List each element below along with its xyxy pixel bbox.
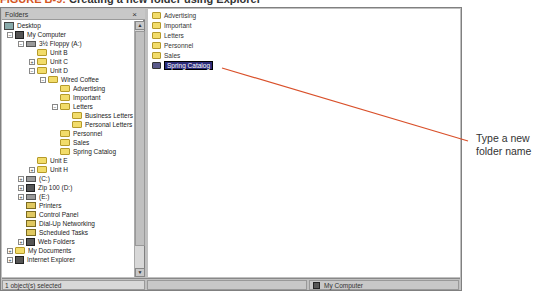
scroll-down-icon[interactable]: ▼ (135, 268, 145, 277)
tree-item-desktop[interactable]: Desktop (4, 21, 41, 30)
control-panel-icon (26, 211, 36, 218)
tree-item-unit-b[interactable]: Unit B (37, 48, 68, 57)
tree-item-letters[interactable]: −Letters (52, 102, 93, 111)
tree-item-personnel[interactable]: Personnel (60, 129, 102, 138)
tree-item-unit-d[interactable]: −Unit D (29, 66, 68, 75)
figure-caption: FIGURE B-9: Creating a new folder using … (0, 0, 261, 5)
figure-title: Creating a new folder using Explorer (69, 0, 261, 5)
ie-icon (15, 256, 24, 264)
tree-item-personal-letters[interactable]: Personal Letters (72, 120, 132, 129)
tree-label: My Computer (27, 30, 66, 39)
folder-icon (152, 52, 161, 59)
web-folders-icon (26, 238, 35, 246)
explorer-window: Folders × Desktop −My Computer −3½ Flopp… (0, 7, 462, 291)
tree-scrollbar[interactable]: ▲ ▼ (134, 21, 144, 277)
status-location: My Computer (309, 280, 459, 290)
close-icon[interactable]: × (132, 9, 137, 20)
printers-icon (26, 202, 36, 209)
expand-icon[interactable]: + (18, 194, 24, 200)
tree-item-web-folders[interactable]: +Web Folders (18, 237, 75, 246)
rename-folder-input[interactable]: Spring Catalog (164, 61, 213, 70)
tree-item-drive-c[interactable]: +(C:) (18, 174, 50, 183)
callout-label: Type a new folder name (476, 132, 531, 158)
desktop-icon (4, 22, 14, 30)
folder-icon (60, 139, 70, 146)
dialup-icon (26, 220, 36, 227)
content-folder-letters[interactable]: Letters (152, 31, 184, 40)
collapse-icon[interactable]: − (18, 41, 24, 47)
content-folder-personnel[interactable]: Personnel (152, 41, 193, 50)
expand-icon[interactable]: + (7, 257, 13, 263)
status-selection-count: 1 object(s) selected (2, 280, 145, 290)
content-folder-new[interactable]: Spring Catalog (152, 61, 213, 70)
folder-icon (37, 49, 47, 56)
tree-item-unit-e[interactable]: Unit E (37, 156, 68, 165)
floppy-drive-icon (26, 41, 36, 47)
tree-item-unit-h[interactable]: +Unit H (29, 165, 68, 174)
tree-label: Control Panel (39, 210, 78, 219)
tree-label: Sales (73, 138, 89, 147)
tree-item-sales[interactable]: Sales (60, 138, 89, 147)
expand-icon[interactable]: + (7, 248, 13, 254)
tree-item-my-computer[interactable]: −My Computer (7, 30, 66, 39)
tree-item-important[interactable]: Important (60, 93, 100, 102)
scroll-thumb[interactable] (135, 31, 145, 246)
expand-icon[interactable]: + (29, 59, 35, 65)
tree-item-control-panel[interactable]: Control Panel (26, 210, 78, 219)
tree-label: Important (73, 93, 100, 102)
expand-icon[interactable]: + (29, 167, 35, 173)
content-folder-sales[interactable]: Sales (152, 51, 180, 60)
collapse-icon[interactable]: − (29, 68, 35, 74)
folder-open-icon (48, 76, 58, 83)
tree-item-floppy-a[interactable]: −3½ Floppy (A:) (18, 39, 82, 48)
tree-label: Unit E (50, 156, 68, 165)
folder-icon (60, 103, 70, 110)
callout-line-2: folder name (476, 145, 531, 158)
folder-icon (60, 130, 70, 137)
collapse-icon[interactable]: − (7, 32, 13, 38)
tree-label: Printers (39, 201, 61, 210)
tree-item-unit-c[interactable]: +Unit C (29, 57, 68, 66)
folders-pane: Folders × Desktop −My Computer −3½ Flopp… (2, 9, 145, 277)
collapse-icon[interactable]: − (52, 104, 58, 110)
tree-item-business-letters[interactable]: Business Letters (72, 111, 133, 120)
tree-label: Dial-Up Networking (39, 219, 95, 228)
tree-label: Personal Letters (85, 120, 132, 129)
expand-icon[interactable]: + (18, 239, 24, 245)
tree-item-spring-catalog[interactable]: Spring Catalog (60, 147, 116, 156)
item-label: Personnel (164, 41, 193, 50)
folder-icon (37, 58, 47, 65)
hard-drive-icon (26, 176, 36, 182)
tree-label: (C:) (39, 174, 50, 183)
tree-item-wired-coffee[interactable]: −Wired Coffee (40, 75, 99, 84)
tree-label: Personnel (73, 129, 102, 138)
tree-label: Unit C (50, 57, 68, 66)
scroll-up-icon[interactable]: ▲ (135, 21, 145, 30)
tree-item-printers[interactable]: Printers (26, 201, 61, 210)
tree-item-drive-e[interactable]: +(E:) (18, 192, 49, 201)
tree-item-internet-explorer[interactable]: +Internet Explorer (7, 255, 75, 264)
tree-label: My Documents (28, 246, 71, 255)
content-folder-advertising[interactable]: Advertising (152, 11, 196, 20)
figure-number: FIGURE B-9: (0, 0, 66, 5)
contents-pane: Advertising Important Letters Personnel … (148, 9, 460, 277)
tree-item-scheduled-tasks[interactable]: Scheduled Tasks (26, 228, 88, 237)
tree-label: Unit D (50, 66, 68, 75)
scheduled-tasks-icon (26, 229, 36, 236)
tree-label: Unit B (50, 48, 68, 57)
folder-icon (37, 67, 47, 74)
tree-item-zip-d[interactable]: +Zip 100 (D:) (18, 183, 72, 192)
expand-icon[interactable]: + (18, 185, 24, 191)
collapse-icon[interactable]: − (40, 77, 46, 83)
tree-item-dialup-networking[interactable]: Dial-Up Networking (26, 219, 95, 228)
expand-icon[interactable]: + (18, 176, 24, 182)
folder-icon (152, 32, 161, 39)
folder-icon (152, 62, 161, 69)
folder-icon (37, 157, 47, 164)
content-folder-important[interactable]: Important (152, 21, 191, 30)
tree-label: Wired Coffee (61, 75, 99, 84)
tree-item-advertising[interactable]: Advertising (60, 84, 105, 93)
tree-label: Letters (73, 102, 93, 111)
tree-label: (E:) (39, 192, 49, 201)
tree-item-my-documents[interactable]: +My Documents (7, 246, 71, 255)
